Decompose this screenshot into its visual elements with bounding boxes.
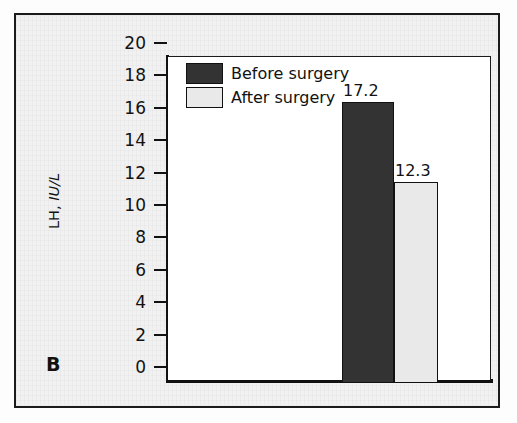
panel-label: B	[46, 353, 61, 375]
y-axis-title: LH, IU/L	[46, 141, 62, 261]
legend-item-before-surgery[interactable]: Before surgery	[186, 63, 349, 84]
y-axis-title-unit: IU/L	[46, 173, 62, 201]
y-tick-label: 8	[102, 229, 146, 246]
y-tick-label: 18	[102, 67, 146, 84]
bar-after-surgery-value-label: 12.3	[395, 163, 431, 179]
y-tick-label: 10	[102, 197, 146, 214]
y-axis-title-prefix: LH,	[46, 201, 62, 229]
y-tick-label: 2	[102, 326, 146, 343]
bar-before-surgery-value-label: 17.2	[343, 83, 379, 99]
legend-label-before-surgery: Before surgery	[231, 66, 349, 82]
y-tick-mark	[154, 42, 167, 44]
figure-panel-b: B LH, IU/L 02468101214161820 Before surg…	[0, 0, 517, 423]
bar-before-surgery[interactable]	[342, 102, 394, 383]
y-tick-label: 12	[102, 164, 146, 181]
plot-area: Before surgery After surgery 17.212.3	[168, 56, 491, 380]
y-tick-label: 6	[102, 261, 146, 278]
dark-swatch-icon	[186, 63, 223, 84]
bar-after-surgery[interactable]	[394, 182, 438, 383]
y-tick-label: 16	[102, 99, 146, 116]
legend-item-after-surgery[interactable]: After surgery	[186, 87, 349, 108]
light-swatch-icon	[186, 87, 223, 108]
y-tick-label: 4	[102, 294, 146, 311]
y-tick-label: 14	[102, 132, 146, 149]
chart-legend: Before surgery After surgery	[186, 63, 349, 108]
figure-outer-frame: B LH, IU/L 02468101214161820 Before surg…	[14, 13, 500, 408]
legend-label-after-surgery: After surgery	[231, 90, 335, 106]
y-tick-label: 0	[102, 359, 146, 376]
y-tick-label: 20	[102, 35, 146, 52]
